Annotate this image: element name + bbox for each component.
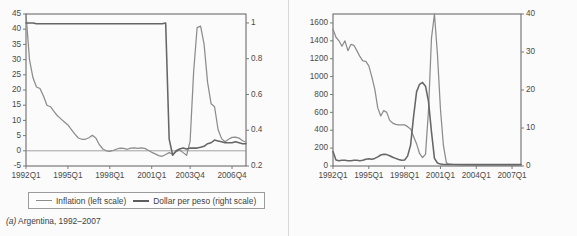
svg-text:40: 40 — [12, 24, 22, 33]
legend-label-inflation-a: Inflation (left scale) — [56, 196, 126, 206]
legend-swatch-fx-icon — [133, 200, 149, 202]
svg-text:2004Q1: 2004Q1 — [462, 171, 492, 180]
legend-item-fx-a: Dollar per peso (right scale) — [133, 196, 256, 206]
svg-text:20: 20 — [526, 85, 536, 94]
svg-text:1998Q1: 1998Q1 — [95, 171, 125, 180]
svg-text:35: 35 — [12, 40, 22, 49]
svg-text:1200: 1200 — [310, 54, 329, 63]
chart-svg-argentina: -50510152025303540450.20.40.60.811992Q11… — [0, 0, 288, 180]
svg-text:1000: 1000 — [310, 72, 329, 81]
svg-text:1992Q1: 1992Q1 — [318, 171, 348, 180]
svg-text:2007Q1: 2007Q1 — [497, 171, 527, 180]
panel-argentina: -50510152025303540450.20.40.60.811992Q11… — [0, 0, 288, 236]
figure-two-panel-chart: -50510152025303540450.20.40.60.811992Q11… — [0, 0, 577, 236]
svg-text:400: 400 — [314, 125, 328, 134]
svg-text:10: 10 — [526, 123, 536, 132]
svg-text:10: 10 — [12, 116, 22, 125]
svg-text:-5: -5 — [14, 161, 22, 170]
svg-text:1998Q1: 1998Q1 — [390, 171, 420, 180]
svg-text:2001Q1: 2001Q1 — [426, 171, 456, 180]
svg-text:600: 600 — [314, 108, 328, 117]
svg-text:30: 30 — [12, 55, 22, 64]
legend-item-inflation-a: Inflation (left scale) — [36, 196, 126, 206]
svg-text:15: 15 — [12, 100, 22, 109]
plot-area-bulgaria: 0200400600800100012001400160001020304019… — [289, 0, 577, 180]
legend-swatch-inflation-icon — [36, 200, 52, 201]
svg-text:5: 5 — [16, 131, 21, 140]
svg-text:0.6: 0.6 — [251, 90, 263, 99]
panel-bulgaria: 0200400600800100012001400160001020304019… — [288, 0, 576, 236]
caption-marker-a: (a) — [6, 216, 16, 226]
svg-text:2003Q4: 2003Q4 — [176, 171, 206, 180]
svg-text:25: 25 — [12, 70, 22, 79]
svg-text:0.8: 0.8 — [251, 54, 263, 63]
svg-text:800: 800 — [314, 90, 328, 99]
svg-text:1: 1 — [251, 18, 256, 27]
svg-text:40: 40 — [526, 9, 536, 18]
caption-text-a: Argentina, 1992–2007 — [16, 216, 100, 226]
svg-text:1995Q1: 1995Q1 — [53, 171, 83, 180]
svg-text:1995Q1: 1995Q1 — [354, 171, 384, 180]
svg-text:45: 45 — [12, 9, 22, 18]
plot-area-argentina: -50510152025303540450.20.40.60.811992Q11… — [0, 0, 288, 180]
chart-svg-bulgaria: 0200400600800100012001400160001020304019… — [289, 0, 577, 180]
svg-text:30: 30 — [526, 47, 536, 56]
legend-argentina: Inflation (left scale) Dollar per peso (… — [28, 192, 265, 209]
legend-label-fx-a: Dollar per peso (right scale) — [153, 196, 256, 206]
svg-text:1992Q1: 1992Q1 — [11, 171, 41, 180]
svg-text:1400: 1400 — [310, 36, 329, 45]
svg-text:0: 0 — [526, 161, 531, 170]
svg-text:0: 0 — [323, 161, 328, 170]
svg-text:0: 0 — [16, 146, 21, 155]
svg-text:1600: 1600 — [310, 18, 329, 27]
svg-text:2006Q4: 2006Q4 — [217, 171, 247, 180]
svg-text:20: 20 — [12, 85, 22, 94]
svg-text:2001Q1: 2001Q1 — [137, 171, 167, 180]
svg-text:0.2: 0.2 — [251, 161, 263, 170]
svg-text:0.4: 0.4 — [251, 125, 263, 134]
caption-argentina: (a) Argentina, 1992–2007 — [6, 216, 101, 226]
svg-text:200: 200 — [314, 143, 328, 152]
